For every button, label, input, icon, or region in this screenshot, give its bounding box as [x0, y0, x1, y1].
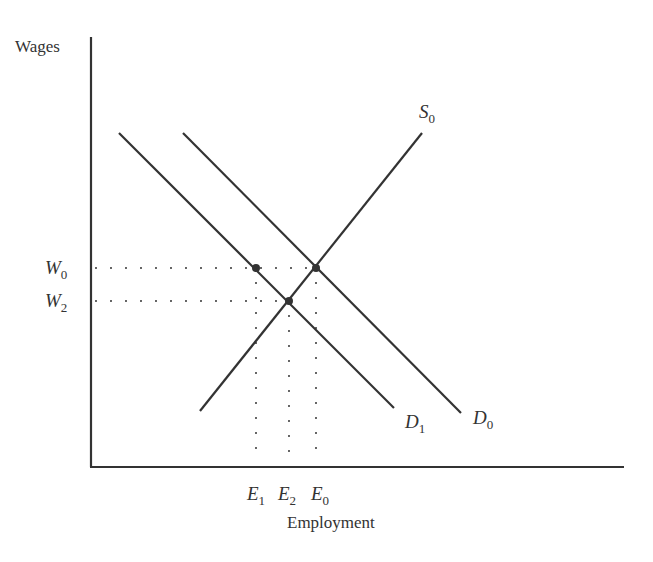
d1-label: D1: [404, 411, 425, 436]
demand-curve-d0: [183, 133, 461, 413]
point-e0-w0: [312, 264, 320, 272]
point-e1-w0: [252, 264, 260, 272]
labor-market-diagram: Wages Employment S0 D1 D0 W0 W2 E1 E2 E0: [0, 0, 653, 562]
supply-curve-s0: [200, 133, 422, 411]
d0-label: D0: [472, 407, 493, 432]
e1-label: E1: [246, 483, 265, 508]
point-e2-w2: [285, 297, 293, 305]
x-axis-label: Employment: [287, 513, 375, 532]
s0-label: S0: [419, 101, 435, 126]
w0-label: W0: [45, 257, 67, 282]
y-axis-label: Wages: [15, 37, 60, 56]
w2-label: W2: [45, 290, 67, 315]
e0-label: E0: [310, 483, 329, 508]
e2-label: E2: [277, 483, 296, 508]
